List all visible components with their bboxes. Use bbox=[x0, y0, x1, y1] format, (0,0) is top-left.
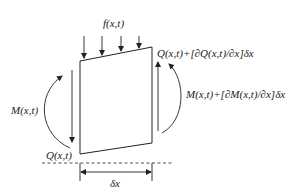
left-moment-arc-icon bbox=[44, 76, 70, 148]
beam-element-diagram: f(x,t) Q(x,t) M(x,t) Q(x,t)+[∂Q(x,t)/∂x]… bbox=[0, 0, 300, 196]
right-shear-label: Q(x,t)+[∂Q(x,t)/∂x]δx bbox=[157, 47, 254, 60]
load-label: f(x,t) bbox=[103, 17, 124, 30]
left-shear-label: Q(x,t) bbox=[46, 149, 72, 162]
left-moment-label: M(x,t) bbox=[10, 104, 39, 117]
beam-element bbox=[80, 47, 152, 154]
right-moment-arc-icon bbox=[162, 64, 181, 133]
length-label: δx bbox=[110, 177, 120, 189]
right-moment-label: M(x,t)+[∂M(x,t)/∂x]δx bbox=[185, 88, 285, 101]
